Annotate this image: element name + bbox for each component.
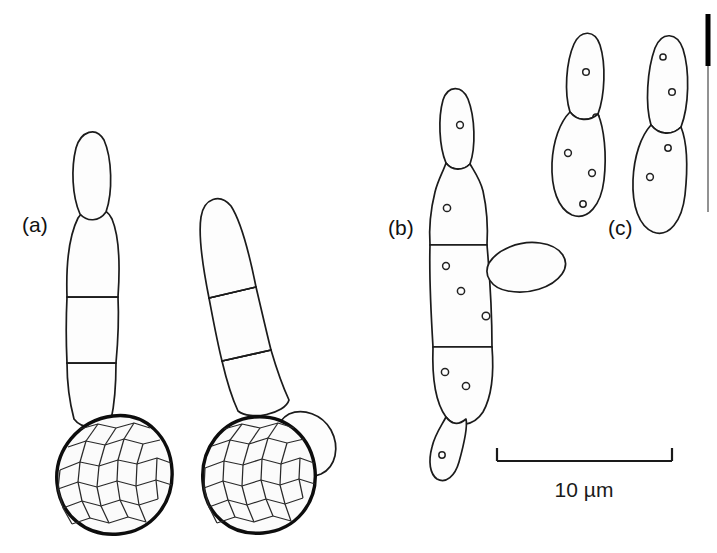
apical-cell-c-right bbox=[648, 36, 688, 133]
vacuole-c-right-apical-2 bbox=[669, 89, 676, 96]
panel-b-group: (b) bbox=[388, 89, 565, 481]
vacuole-b-terminal bbox=[439, 452, 445, 458]
panel-label-a: (a) bbox=[22, 213, 48, 236]
vacuole-c-right-basal-2 bbox=[647, 174, 654, 181]
basal-cell-c-right bbox=[633, 125, 687, 233]
scale-bar-label: 10 µm bbox=[555, 478, 614, 501]
scale-bar-group: 10 µm bbox=[497, 448, 672, 501]
apical-cell-b bbox=[440, 89, 474, 170]
subapical-cell-b bbox=[430, 163, 488, 245]
vacuole-c-left-basal-1 bbox=[565, 150, 572, 157]
vacuole-b-median-1 bbox=[443, 263, 450, 270]
vacuole-b-subapical bbox=[443, 204, 450, 211]
vacuole-b-basal-2 bbox=[462, 382, 469, 389]
cell-chain-c-left bbox=[552, 33, 605, 216]
vacuole-b-apical bbox=[457, 122, 464, 129]
germ-tube-upper-segment-left bbox=[67, 207, 119, 297]
basal-cell-c-left bbox=[552, 112, 605, 216]
panel-label-b: (b) bbox=[388, 216, 414, 239]
ornamented-spore-right bbox=[203, 417, 316, 534]
panel-label-c: (c) bbox=[608, 216, 633, 239]
spore-a-right bbox=[200, 199, 336, 534]
terminal-cell-b bbox=[430, 417, 467, 480]
vacuole-c-right-apical-1 bbox=[660, 54, 666, 60]
vacuole-b-median-2 bbox=[457, 287, 464, 294]
germ-tube-basal-segment-right bbox=[222, 350, 289, 416]
median-cell-b bbox=[430, 245, 492, 347]
lateral-bud-b bbox=[487, 242, 565, 292]
vacuole-c-left-basal-2 bbox=[589, 170, 596, 177]
cell-chain-c-right bbox=[633, 36, 688, 233]
apical-cell-c-left bbox=[567, 33, 604, 119]
vacuole-c-right-basal-1 bbox=[665, 145, 671, 151]
germ-tube-middle-segment-left bbox=[66, 297, 118, 363]
figure-svg: (a) bbox=[0, 0, 717, 553]
germ-tube-middle-segment-right bbox=[209, 287, 271, 361]
panel-a-group: (a) bbox=[22, 132, 336, 534]
vacuole-c-left-apical bbox=[583, 69, 590, 76]
vacuole-c-left-basal-3 bbox=[580, 201, 586, 207]
spore-a-left bbox=[57, 132, 172, 534]
vacuole-b-basal-1 bbox=[441, 368, 448, 375]
ornamented-spore-left bbox=[57, 416, 172, 535]
apical-cell-left bbox=[73, 132, 111, 220]
scale-bar-line bbox=[497, 448, 672, 461]
vacuole-b-median-3 bbox=[482, 312, 490, 320]
panel-c-group: (c) bbox=[552, 33, 688, 239]
germ-tube-upper-segment-right bbox=[200, 199, 256, 298]
figure-canvas: (a) bbox=[0, 0, 717, 553]
